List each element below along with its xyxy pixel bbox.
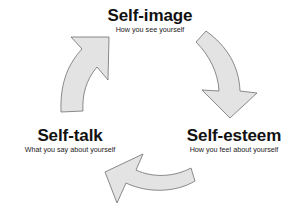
- arrow-self-image-to-self-esteem-icon: [196, 31, 257, 118]
- arrow-self-esteem-to-self-talk-icon: [105, 154, 195, 203]
- node-title: Self-talk: [10, 127, 130, 145]
- arrow-self-talk-to-self-image-icon: [61, 37, 109, 112]
- node-subtitle: What you say about yourself: [10, 145, 130, 154]
- node-self-esteem: Self-esteem How you feel about yourself: [176, 127, 292, 154]
- node-self-image: Self-image How you see yourself: [95, 7, 205, 34]
- self-concept-cycle-diagram: Self-image How you see yourself Self-est…: [0, 0, 300, 220]
- node-subtitle: How you see yourself: [95, 25, 205, 34]
- node-subtitle: How you feel about yourself: [176, 145, 292, 154]
- node-title: Self-image: [95, 7, 205, 25]
- node-title: Self-esteem: [176, 127, 292, 145]
- node-self-talk: Self-talk What you say about yourself: [10, 127, 130, 154]
